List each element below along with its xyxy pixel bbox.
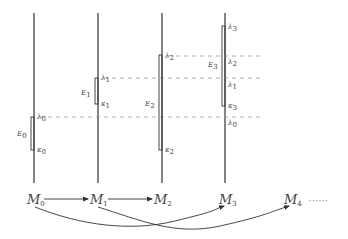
label-kappa1: κ1 [100,100,110,110]
arrow-M1-M4 [98,206,289,229]
label-M3: M3 [218,192,237,208]
interval-E3 [222,26,225,106]
label-E0: E0 [16,130,27,140]
label-E3: E3 [207,61,218,71]
label-M2: M2 [153,192,172,208]
label-kappa2: κ2 [164,146,174,156]
label-M1: M1 [89,192,108,208]
label-M4: M4 [283,192,302,208]
label-kappa3: κ3 [227,102,237,112]
label-col3-lambda0: λ0 [227,119,237,129]
label-lambda2: λ2 [164,52,174,62]
label-E2: E2 [144,100,155,110]
diagram-canvas: E0 E1 E2 E3 λ0 λ1 λ2 λ3 κ0 κ1 κ2 κ3 λ2 λ… [0,0,348,239]
label-lambda1: λ1 [100,74,110,84]
label-col3-lambda2: λ2 [227,58,237,68]
label-lambda3: λ3 [227,23,237,33]
arrow-M0-M3 [35,206,224,226]
label-lambda0: λ0 [36,113,46,123]
ellipsis: ······ [309,197,328,205]
interval-E1 [95,78,98,104]
label-M0: M0 [26,192,45,208]
label-col3-lambda1: λ1 [227,81,237,91]
label-E1: E1 [80,89,91,99]
label-kappa0: κ0 [36,146,46,156]
interval-E2 [159,55,162,150]
